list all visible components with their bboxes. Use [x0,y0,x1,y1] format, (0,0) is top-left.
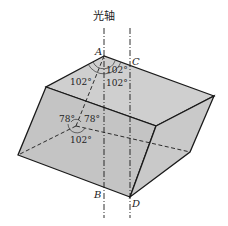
angle-label-top-right-lower: 102° [106,78,128,88]
angle-label-top-right-upper: 102° [106,65,128,75]
vertex-label-a: A [94,46,102,57]
angle-label-inner-left: 78° [59,114,75,124]
angle-label-inner-bottom: 102° [70,135,92,145]
angle-label-inner-right: 78° [84,114,100,124]
angle-label-top-left: 102° [70,77,92,87]
vertex-label-d: D [131,198,140,209]
vertex-label-b: B [93,189,101,200]
vertex-label-c: C [132,56,140,67]
optic-axis-label: 光轴 [93,9,115,23]
calcite-rhombohedron-diagram: 光轴 A C B D 102° 102° 102° 78° 78° 102° [0,0,228,226]
